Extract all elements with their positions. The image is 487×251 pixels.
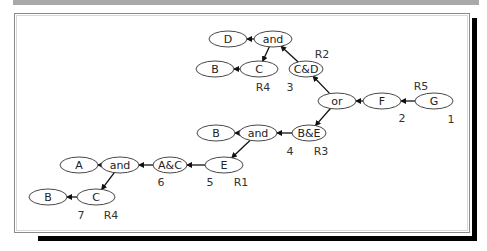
node-label: C bbox=[255, 63, 263, 76]
node-annotation: 3 bbox=[287, 81, 294, 94]
diagram-node: F bbox=[363, 93, 401, 109]
node-label: A&C bbox=[158, 159, 182, 172]
node-annotation: R1 bbox=[234, 176, 249, 189]
diagram-node: and bbox=[254, 31, 292, 47]
node-annotation: R4 bbox=[104, 209, 119, 222]
derivation-tree-diagram: DandBCC&DorFGBandB&EAandA&CEBC R2R43R521… bbox=[0, 0, 487, 251]
node-label: D bbox=[224, 33, 232, 46]
diagram-node: E bbox=[205, 157, 243, 173]
node-annotation: R2 bbox=[315, 48, 330, 61]
node-label: B bbox=[211, 63, 219, 76]
node-label: and bbox=[263, 33, 284, 46]
node-annotation: 4 bbox=[287, 145, 294, 158]
node-annotation: R3 bbox=[314, 145, 329, 158]
node-label: A bbox=[75, 159, 83, 172]
node-annotation: 2 bbox=[399, 112, 406, 125]
node-label: G bbox=[430, 95, 439, 108]
diagram-node: B bbox=[196, 61, 234, 77]
diagram-node: and bbox=[239, 125, 277, 141]
node-annotation: R4 bbox=[256, 81, 271, 94]
node-annotation: 7 bbox=[78, 209, 85, 222]
node-label: E bbox=[221, 159, 228, 172]
diagram-node: C bbox=[77, 189, 115, 205]
node-annotation: 1 bbox=[448, 113, 455, 126]
node-label: C&D bbox=[294, 63, 319, 76]
diagram-node: A bbox=[60, 157, 98, 173]
node-annotation: R5 bbox=[414, 80, 429, 93]
diagram-node: G bbox=[415, 93, 453, 109]
edge-arrow bbox=[102, 173, 115, 190]
diagram-node: C&D bbox=[289, 61, 323, 77]
diagram-node: D bbox=[209, 31, 247, 47]
node-label: B bbox=[44, 191, 52, 204]
node-label: and bbox=[248, 127, 269, 140]
diagram-node: A&C bbox=[153, 157, 187, 173]
edge-arrow bbox=[315, 109, 330, 126]
node-label: C bbox=[92, 191, 100, 204]
node-label: F bbox=[379, 95, 385, 108]
diagram-node: and bbox=[101, 157, 139, 173]
diagram-node: C bbox=[240, 61, 278, 77]
diagram-node: B bbox=[29, 189, 67, 205]
diagram-node: B bbox=[197, 125, 235, 141]
edge-arrow bbox=[313, 76, 330, 93]
diagram-node: or bbox=[318, 93, 356, 109]
diagram-node: B&E bbox=[292, 125, 326, 141]
node-label: B&E bbox=[297, 127, 320, 140]
edge-arrow bbox=[263, 47, 270, 61]
node-label: and bbox=[110, 159, 131, 172]
edge-arrow bbox=[232, 140, 250, 157]
node-label: or bbox=[331, 95, 343, 108]
node-label: B bbox=[212, 127, 220, 140]
edge-arrow bbox=[281, 46, 298, 62]
node-annotation: 6 bbox=[158, 176, 165, 189]
node-annotation: 5 bbox=[207, 176, 214, 189]
